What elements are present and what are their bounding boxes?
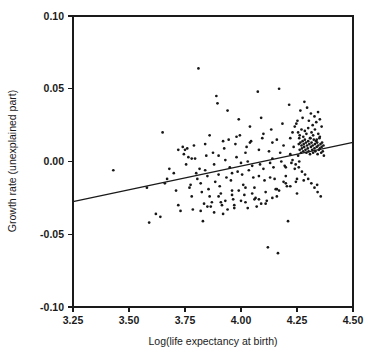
- data-point: [235, 156, 238, 159]
- data-point: [275, 138, 278, 141]
- data-point: [272, 166, 275, 169]
- data-point: [282, 144, 285, 147]
- data-point: [267, 246, 270, 249]
- data-point: [316, 183, 319, 186]
- data-point: [299, 141, 302, 144]
- data-point: [190, 157, 193, 160]
- data-point: [188, 186, 191, 189]
- data-point: [209, 205, 212, 208]
- data-point: [112, 169, 115, 172]
- data-point: [211, 201, 214, 204]
- data-point: [264, 191, 267, 194]
- data-point: [284, 182, 287, 185]
- data-point: [221, 204, 224, 207]
- data-point: [224, 199, 227, 202]
- data-point: [321, 150, 324, 153]
- data-point: [305, 133, 308, 136]
- x-axis-ticks: 3.253.503.754.004.254.50: [63, 307, 364, 326]
- data-point: [270, 128, 273, 131]
- data-point: [297, 166, 300, 169]
- data-point: [268, 150, 271, 153]
- data-point: [252, 176, 255, 179]
- data-point: [312, 134, 315, 137]
- data-point: [262, 133, 265, 136]
- data-point: [256, 90, 259, 93]
- data-point: [321, 141, 324, 144]
- data-point: [216, 102, 219, 105]
- data-point: [260, 117, 263, 120]
- data-point: [183, 153, 186, 156]
- data-point: [271, 197, 274, 200]
- y-tick-label: 0.05: [44, 82, 65, 94]
- data-point: [310, 141, 313, 144]
- data-point: [301, 147, 304, 150]
- data-point: [249, 125, 252, 128]
- data-point: [253, 186, 256, 189]
- data-point: [213, 211, 216, 214]
- data-point: [172, 172, 175, 175]
- data-point: [265, 199, 268, 202]
- data-point: [205, 154, 208, 157]
- data-point: [215, 95, 218, 98]
- data-point: [259, 163, 262, 166]
- data-point: [263, 179, 266, 182]
- data-point: [317, 133, 320, 136]
- data-point: [224, 159, 227, 162]
- y-axis-title: Growth rate (unexplained part): [6, 90, 18, 232]
- data-point: [281, 122, 284, 125]
- data-point: [246, 207, 249, 210]
- data-point: [226, 208, 229, 211]
- data-point: [175, 189, 178, 192]
- data-point: [233, 204, 236, 207]
- data-point: [197, 67, 200, 70]
- data-point: [304, 149, 307, 152]
- data-point: [305, 141, 308, 144]
- data-point: [277, 252, 280, 255]
- data-point: [233, 207, 236, 210]
- data-point: [322, 144, 325, 147]
- data-point: [239, 134, 242, 137]
- data-point: [199, 210, 202, 213]
- data-point: [190, 195, 193, 198]
- x-tick-label: 4.25: [287, 314, 308, 326]
- data-point: [202, 220, 205, 223]
- x-axis-title: Log(life expectancy at birth): [149, 335, 278, 347]
- data-point: [307, 178, 310, 181]
- data-point: [193, 144, 196, 147]
- data-point: [258, 198, 261, 201]
- data-point: [249, 141, 252, 144]
- data-point: [217, 154, 220, 157]
- data-point: [226, 109, 229, 112]
- data-point: [312, 151, 315, 154]
- data-point: [306, 147, 309, 150]
- data-point: [302, 135, 305, 138]
- data-point: [179, 210, 182, 213]
- data-point: [245, 146, 248, 149]
- data-point: [301, 140, 304, 143]
- data-point: [213, 163, 216, 166]
- data-point: [206, 205, 209, 208]
- data-point: [313, 115, 316, 118]
- plot-box: [73, 16, 353, 307]
- data-point: [308, 143, 311, 146]
- data-point: [314, 143, 317, 146]
- data-point: [309, 137, 312, 140]
- data-point: [237, 189, 240, 192]
- data-point: [311, 124, 314, 127]
- data-point: [284, 166, 287, 169]
- data-point: [291, 159, 294, 162]
- data-point: [219, 201, 222, 204]
- data-point: [275, 188, 278, 191]
- data-point: [231, 172, 234, 175]
- x-tick-label: 3.25: [63, 314, 84, 326]
- data-point: [269, 162, 272, 165]
- data-point: [262, 167, 265, 170]
- y-tick-label: 0.10: [44, 10, 65, 22]
- data-point: [320, 125, 323, 128]
- data-point: [319, 118, 322, 121]
- data-point: [222, 213, 225, 216]
- scatter-plot-figure: 3.253.503.754.004.254.50 -0.10-0.050.000…: [0, 0, 370, 362]
- data-point: [319, 135, 322, 138]
- data-point: [212, 151, 215, 154]
- data-point: [206, 175, 209, 178]
